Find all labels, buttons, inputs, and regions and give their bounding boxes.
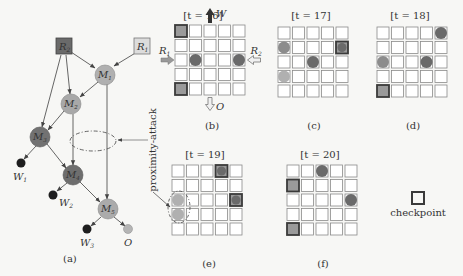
grid-panel-f: [t = 20](f)	[287, 149, 357, 269]
grid-cell	[421, 85, 433, 97]
grid-cell	[421, 27, 433, 39]
grid-cell	[287, 165, 299, 177]
grid-panel-e: [t = 19](e)	[168, 149, 242, 269]
exit-arrow-o-icon	[206, 98, 215, 111]
grid-cell	[230, 165, 242, 177]
node-r2: R2	[56, 38, 72, 54]
grid-caption: (f)	[317, 258, 329, 269]
grid-cell	[421, 71, 433, 83]
grid-cell	[307, 85, 319, 97]
node-m1: M1	[95, 65, 115, 85]
grid-cell	[293, 71, 305, 83]
checkpoint-cell	[377, 85, 389, 97]
svg-text:W3: W3	[80, 237, 94, 249]
grid-cell	[302, 223, 314, 235]
grid-cell	[172, 180, 184, 192]
arrow-label-w: W	[216, 8, 227, 19]
grid-cell	[187, 165, 199, 177]
grid-cell	[316, 223, 328, 235]
robot-marker	[190, 54, 202, 66]
grid-cell	[322, 56, 334, 68]
grid-cell	[392, 42, 404, 54]
robot-marker	[172, 194, 184, 206]
grid-cell	[201, 180, 213, 192]
figure-canvas: R2 R1 M1 M2 M3 M4 M5 W1	[0, 0, 463, 276]
grid-cell	[201, 209, 213, 221]
grid-caption: (b)	[205, 120, 219, 131]
grid-cell	[307, 42, 319, 54]
arrow-label-r2: R2	[250, 45, 263, 57]
proximity-ellipse	[70, 131, 116, 151]
robot-marker	[217, 167, 226, 176]
grid-cell	[187, 209, 199, 221]
grid-cell	[392, 27, 404, 39]
grid-cell	[377, 71, 389, 83]
grid-cell	[336, 85, 348, 97]
robot-marker	[421, 56, 433, 68]
grid-cell	[230, 209, 242, 221]
grid-cell	[435, 42, 447, 54]
robot-marker	[172, 209, 184, 221]
grid-title: [t = 17]	[291, 10, 330, 21]
grid-caption: (c)	[307, 120, 321, 131]
grid-cell	[216, 223, 228, 235]
grid-cell	[278, 56, 290, 68]
grid-cell	[377, 42, 389, 54]
grid-cell	[233, 69, 245, 81]
grid-cell	[345, 180, 357, 192]
robot-marker	[233, 54, 245, 66]
grid-cell	[406, 56, 418, 68]
node-w3: W3	[80, 225, 94, 250]
grid-cell	[435, 71, 447, 83]
grid-cell	[345, 223, 357, 235]
svg-text:O: O	[124, 237, 132, 248]
grid-cell	[172, 223, 184, 235]
checkpoint-cell	[175, 83, 187, 95]
grid-cell	[278, 85, 290, 97]
robot-marker	[345, 194, 357, 206]
grid-cell	[216, 209, 228, 221]
grid-cell	[316, 194, 328, 206]
grid-cell	[331, 194, 343, 206]
grid-cell	[392, 56, 404, 68]
checkpoint-legend-swatch	[412, 192, 424, 204]
grid-cell	[187, 194, 199, 206]
node-o: O	[124, 225, 133, 249]
grid-cell	[233, 83, 245, 95]
grid-cell	[406, 27, 418, 39]
grid-cell	[331, 165, 343, 177]
grid-cell	[204, 69, 216, 81]
grid-title: [t = 18]	[390, 10, 429, 21]
robot-marker	[377, 56, 389, 68]
grid-cell	[172, 165, 184, 177]
grid-cell	[190, 69, 202, 81]
proximity-pointer-e	[153, 192, 170, 207]
grid-cell	[230, 180, 242, 192]
grid-cell	[204, 25, 216, 37]
node-r1: R1	[134, 38, 150, 54]
grid-cell	[293, 42, 305, 54]
grid-cell	[201, 194, 213, 206]
grid-cell	[190, 83, 202, 95]
grid-cell	[216, 180, 228, 192]
robot-marker	[307, 56, 319, 68]
grid-panel-b: [t = 16](b)WOR1R2	[158, 8, 262, 131]
grid-caption: (d)	[406, 120, 420, 131]
node-m2: M2	[61, 94, 81, 114]
proximity-attack-label: proximity-attack	[147, 107, 158, 191]
grid-cell	[187, 223, 199, 235]
grid-panel-c: [t = 17](c)	[278, 10, 348, 131]
grid-cell	[336, 56, 348, 68]
grid-cell	[287, 209, 299, 221]
grid-cell	[302, 165, 314, 177]
grid-cell	[336, 27, 348, 39]
grid-cell	[201, 223, 213, 235]
grid-cell	[233, 40, 245, 52]
grid-cell	[293, 56, 305, 68]
legend: checkpoint	[390, 192, 446, 218]
grid-cell	[219, 83, 231, 95]
grid-cell	[201, 165, 213, 177]
node-m4: M4	[63, 165, 83, 185]
checkpoint-legend-label: checkpoint	[390, 207, 446, 218]
grid-cell	[331, 209, 343, 221]
